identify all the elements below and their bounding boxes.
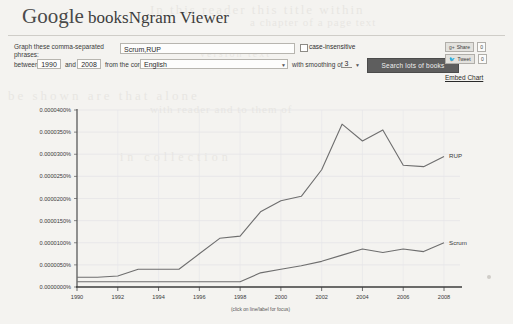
between-label: between	[14, 61, 39, 68]
y-axis-tick-label: 0.0000250%	[40, 173, 71, 179]
x-axis-tick-label: 1990	[71, 294, 83, 300]
header-divider	[8, 35, 505, 36]
social-share-group: g+ Share 0 🐦 Tweet 0 Embed Chart	[445, 42, 507, 84]
logo-google-text: Google	[22, 4, 84, 28]
embed-chart-link[interactable]: Embed Chart	[445, 74, 483, 81]
x-axis-tick-label: 1998	[234, 294, 246, 300]
tweet-label: Tweet	[457, 56, 470, 62]
tweet-count: 0	[478, 54, 487, 64]
logo-viewer-text: Ngram Viewer	[129, 8, 229, 27]
smoothing-label: with smoothing of	[292, 61, 343, 68]
x-axis-tick-label: 2004	[356, 294, 368, 300]
series-label-rup: RUP	[449, 152, 462, 159]
y-axis-tick-label: 0.0000300%	[40, 151, 71, 157]
x-axis-tick-label: 1992	[112, 294, 124, 300]
chevron-down-icon[interactable]: ▼	[355, 62, 360, 68]
year-end-input[interactable]: 2008	[77, 59, 101, 69]
series-line-rup	[77, 124, 444, 277]
x-axis-tick-label: 1994	[152, 294, 164, 300]
share-label: Share	[457, 44, 470, 50]
y-axis-tick-label: 0.0000000%	[40, 284, 71, 290]
case-insensitive-checkbox[interactable]	[300, 44, 308, 52]
scan-artifact-text: a chapter of a page text	[250, 16, 376, 28]
and-label: and	[65, 61, 76, 68]
case-insensitive-label[interactable]: case-insensitive	[309, 43, 355, 50]
corpus-select[interactable]: English	[140, 59, 288, 69]
y-axis-tick-label: 0.0000100%	[40, 240, 71, 246]
y-axis-tick-label: 0.0000050%	[40, 262, 71, 268]
smoothing-input[interactable]: 3	[341, 59, 352, 68]
phrases-input[interactable]: Scrum,RUP	[120, 43, 295, 54]
logo-books-text: books	[84, 8, 129, 27]
y-axis-tick-label: 0.0000400%	[40, 107, 71, 113]
ngram-viewer-page: In this reader this title within a chapt…	[0, 0, 513, 324]
twitter-bird-icon: 🐦	[449, 56, 455, 62]
x-axis-tick-label: 1996	[193, 294, 205, 300]
series-line-scrum	[77, 243, 444, 282]
series-label-scrum: Scrum	[449, 239, 467, 246]
year-start-input[interactable]: 1990	[37, 59, 61, 69]
phrases-label: Graph these comma-separated phrases:	[14, 43, 114, 59]
app-logo[interactable]: Google booksNgram Viewer	[22, 4, 229, 29]
y-axis-tick-label: 0.0000150%	[40, 218, 71, 224]
x-axis-tick-label: 2000	[275, 294, 287, 300]
chart-svg[interactable]: 0.0000000%0.0000050%0.0000100%0.0000150%…	[0, 96, 513, 324]
chart-footnote: (click on line/label for focus)	[231, 307, 291, 312]
chevron-down-icon[interactable]: ▼	[281, 62, 286, 68]
ngram-chart[interactable]: 0.0000000%0.0000050%0.0000100%0.0000150%…	[0, 96, 513, 324]
x-axis-tick-label: 2006	[397, 294, 409, 300]
scan-speck	[487, 275, 491, 279]
y-axis-tick-label: 0.0000200%	[40, 196, 71, 202]
share-button[interactable]: g+ Share 0	[445, 42, 507, 52]
x-axis-tick-label: 2002	[315, 294, 327, 300]
google-plus-icon: g+	[449, 44, 455, 50]
y-axis-tick-label: 0.0000350%	[40, 129, 71, 135]
x-axis-tick-label: 2008	[438, 294, 450, 300]
tweet-button[interactable]: 🐦 Tweet 0	[445, 54, 507, 64]
share-count: 0	[477, 42, 486, 52]
